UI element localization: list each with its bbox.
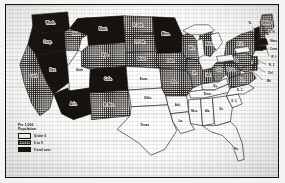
label-LA: La.	[178, 119, 183, 123]
legend-row-low[interactable]: Under 6	[18, 133, 80, 138]
label-MN: Minn.	[162, 32, 170, 36]
label-ND: N. Dak.	[133, 23, 144, 27]
label-MT: Mont.	[99, 27, 108, 31]
label-FL: Fla.	[234, 147, 239, 151]
label-VT: Vt.	[248, 21, 252, 25]
label-IN: Ind.	[206, 73, 211, 77]
label-VA: Va.	[240, 78, 244, 82]
legend-swatch-low	[18, 133, 31, 138]
label-OR: Oreg.	[44, 40, 52, 44]
label-MD: Md.	[267, 79, 272, 83]
label-NC: N. C.	[237, 88, 244, 92]
state-FL[interactable]	[203, 122, 245, 162]
label-WA: Wash.	[46, 21, 55, 25]
label-WY: Wyo.	[102, 53, 110, 57]
label-NH: N. H.	[269, 30, 276, 34]
label-TN: Tenn.	[203, 92, 211, 96]
legend-hatch-icon	[19, 141, 30, 144]
label-RI: R. I.	[271, 55, 276, 59]
legend-label-high: 9 and over	[34, 148, 51, 152]
label-OH: Ohio	[216, 68, 223, 72]
label-SC: S. C.	[231, 99, 237, 103]
label-AZ: Ariz.	[70, 102, 77, 106]
map-legend: Per 1,000 Population Under 6 6 to 9 9 an…	[18, 123, 80, 154]
label-NM: N. Mex.	[104, 103, 115, 107]
label-OK: Okla.	[144, 96, 152, 100]
label-IL: Ill.	[193, 71, 197, 75]
state-DE[interactable]	[253, 64, 257, 70]
label-CA: Calif.	[30, 74, 38, 78]
label-NJ: N. J.	[269, 63, 275, 67]
state-CT[interactable]	[255, 46, 263, 51]
label-MO: Mo.	[172, 80, 178, 84]
label-MA: Mass.	[270, 39, 278, 43]
label-MS: Miss.	[191, 109, 198, 113]
label-UT: Utah	[76, 68, 83, 72]
label-AL: Ala.	[205, 109, 210, 113]
legend-label-low: Under 6	[34, 134, 46, 138]
label-KS: Kans.	[140, 77, 149, 81]
map-frame: Wash. Oreg. Calif. Nev. Idaho Mont. Wyo.…	[5, 4, 279, 178]
map-figure: Wash. Oreg. Calif. Nev. Idaho Mont. Wyo.…	[0, 0, 285, 183]
legend-swatch-high	[18, 147, 31, 152]
state-MA[interactable]	[255, 39, 268, 46]
label-WV: W. Va.	[227, 68, 235, 72]
label-NE: Nebr.	[138, 57, 146, 61]
legend-title: Per 1,000 Population	[18, 123, 80, 132]
label-SD: S. Dak.	[135, 40, 146, 44]
label-CT: Conn.	[270, 47, 278, 51]
label-ID: Idaho	[72, 32, 81, 36]
legend-title-line2: Population	[18, 127, 36, 131]
label-TX: Texas	[141, 123, 150, 127]
label-ME: Maine	[263, 21, 272, 25]
label-WI: Wis.	[188, 46, 195, 50]
label-GA: Ga.	[219, 107, 224, 111]
label-MI: Mich.	[205, 42, 213, 46]
label-CO: Colo.	[104, 77, 112, 81]
legend-swatch-mid	[18, 140, 31, 145]
legend-row-high[interactable]: 9 and over	[18, 147, 80, 152]
legend-row-mid[interactable]: 6 to 9	[18, 140, 80, 145]
label-PA: Pa.	[234, 58, 238, 62]
label-KY: Ky.	[213, 84, 217, 88]
legend-label-mid: 6 to 9	[34, 141, 43, 145]
label-DE: Del.	[269, 71, 274, 75]
label-IA: Iowa	[167, 59, 174, 63]
label-AR: Ark.	[175, 103, 181, 107]
label-NV: Nev.	[49, 68, 56, 72]
label-NY: N. Y.	[237, 42, 243, 46]
